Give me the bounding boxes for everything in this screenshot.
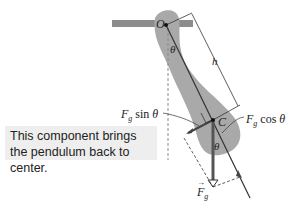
cos-component-label: Fg cos θ — [246, 112, 285, 128]
gravity-force-label: →Fg — [197, 185, 208, 201]
pivot-label: O — [156, 17, 165, 32]
pendulum-diagram — [0, 0, 296, 209]
pendulum-body — [154, 10, 240, 155]
sin-component-label: Fg sin θ — [121, 107, 158, 123]
callout-box: This component brings the pendulum back … — [5, 126, 157, 160]
center-label: C — [218, 115, 226, 130]
center-of-mass-point — [211, 118, 215, 122]
angle-label-bottom: θ — [214, 140, 219, 152]
angle-label-top: θ — [170, 43, 175, 55]
support-bar — [112, 20, 193, 27]
h-label: h — [212, 55, 218, 67]
